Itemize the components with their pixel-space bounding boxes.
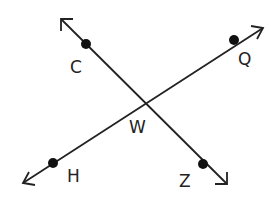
intersecting-lines-diagram: C Q W H Z bbox=[0, 0, 271, 202]
line-hq bbox=[23, 26, 263, 185]
point-c bbox=[81, 39, 91, 49]
label-c: C bbox=[70, 57, 82, 77]
label-q: Q bbox=[238, 49, 251, 69]
point-h bbox=[48, 158, 58, 168]
label-h: H bbox=[67, 166, 80, 186]
point-z bbox=[198, 159, 208, 169]
label-z: Z bbox=[179, 171, 191, 191]
label-w: W bbox=[129, 117, 146, 137]
point-q bbox=[229, 35, 239, 45]
